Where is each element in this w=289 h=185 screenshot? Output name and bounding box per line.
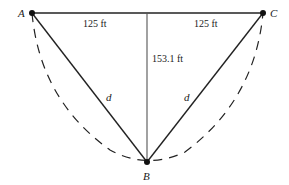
point-c-dot	[260, 10, 266, 16]
segment-cb	[147, 13, 263, 162]
label-side-ab: d	[106, 91, 112, 103]
point-b-dot	[144, 159, 150, 165]
label-right-half: 125 ft	[194, 18, 218, 29]
label-left-half: 125 ft	[83, 18, 107, 29]
label-side-cb: d	[184, 91, 190, 103]
segment-ab	[32, 13, 147, 162]
label-point-a: A	[17, 7, 25, 19]
label-point-b: B	[143, 170, 150, 182]
label-height: 153.1 ft	[152, 53, 183, 64]
label-point-c: C	[270, 7, 278, 19]
triangle-diagram: A C B 125 ft 125 ft 153.1 ft d d	[0, 0, 289, 185]
point-a-dot	[29, 10, 35, 16]
